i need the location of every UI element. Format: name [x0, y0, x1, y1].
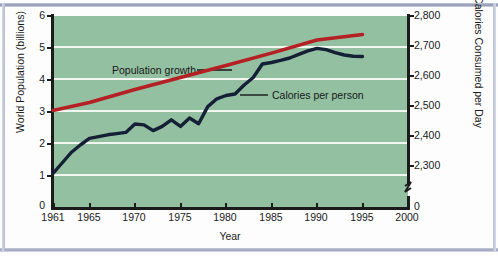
annotation-population-growth: Population growth: [112, 64, 196, 76]
y-axis-right-line: [407, 14, 410, 184]
chart-figure: 6 5 4 3 2 1 0 2,800 2,700 2,600 2,500 2,…: [0, 0, 498, 256]
y-tick-left-5: [47, 47, 52, 49]
gridline-4: [53, 78, 408, 80]
y-axis-right-title: Calories Consumed per Day: [473, 0, 485, 137]
y-tick-left-2: [47, 143, 52, 145]
frame-right-border: [493, 3, 496, 251]
y-label-right-2400: 2,400: [414, 130, 460, 141]
x-axis-title: Year: [0, 230, 460, 242]
x-tick-1990: [316, 203, 318, 208]
x-label-1985: 1985: [249, 212, 293, 223]
y-label-right-2800: 2,800: [414, 10, 460, 21]
gridline-3: [53, 110, 408, 112]
frame-bottom-border: [0, 248, 498, 252]
x-tick-1985: [271, 203, 273, 208]
x-tick-1975: [180, 203, 182, 208]
x-tick-1961: [53, 203, 55, 208]
y-label-right-0: 0: [414, 201, 460, 212]
x-label-1965: 1965: [67, 212, 111, 223]
plot-area: [53, 16, 408, 208]
y-label-right-2500: 2,500: [414, 100, 460, 111]
x-tick-1965: [89, 203, 91, 208]
frame-left-border: [2, 3, 5, 251]
x-label-1995: 1995: [340, 212, 384, 223]
x-label-1975: 1975: [158, 212, 202, 223]
y-tick-left-6: [47, 15, 52, 17]
y-tick-left-1: [47, 175, 52, 177]
y-tick-left-4: [47, 79, 52, 81]
y-tick-left-3: [47, 111, 52, 113]
frame-top-border: [0, 3, 498, 7]
x-label-2000: 2000: [385, 212, 429, 223]
gridline-5: [53, 46, 408, 48]
x-tick-1970: [134, 203, 136, 208]
x-label-1980: 1980: [203, 212, 247, 223]
y-label-right-2700: 2,700: [414, 40, 460, 51]
x-tick-1995: [362, 203, 364, 208]
x-label-1970: 1970: [112, 212, 156, 223]
gridline-2: [53, 142, 408, 144]
y-label-right-2600: 2,600: [414, 70, 460, 81]
x-tick-2000: [407, 203, 409, 208]
y-axis-left-title: World Population (billions): [14, 8, 26, 136]
y-label-right-2300: 2,300: [414, 160, 460, 171]
x-tick-1980: [225, 203, 227, 208]
y-label-left-1: 1: [5, 170, 45, 181]
annotation-calories-per-person: Calories per person: [272, 89, 364, 101]
y-label-left-2: 2: [5, 138, 45, 149]
x-axis-line: [51, 207, 410, 210]
y-label-left-0: 0: [5, 200, 45, 211]
x-label-1990: 1990: [294, 212, 338, 223]
gridline-1: [53, 174, 408, 176]
